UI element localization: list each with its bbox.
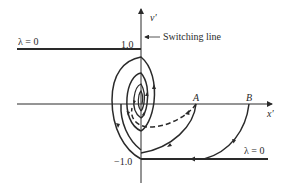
v-axis-label: v′ — [150, 13, 157, 23]
phase-plane-diagram: v′ 1.0 Switching line λ = 0 A B x′ −1.0 … — [0, 0, 288, 189]
arrow-lower-lambda-icon — [190, 157, 195, 162]
point-a-label: A — [193, 93, 199, 103]
lambda-upper-label: λ = 0 — [18, 37, 39, 47]
y-tick-bottom: −1.0 — [114, 157, 132, 167]
y-tick-top: 1.0 — [121, 40, 134, 50]
point-b-label: B — [246, 93, 252, 103]
arrow-outer-right-icon — [152, 84, 156, 89]
diagram-svg — [0, 0, 288, 189]
switching-line-label: Switching line — [163, 32, 221, 42]
arrow-dashed-icon — [185, 110, 190, 115]
trajectory-from-b — [204, 104, 249, 159]
lambda-lower-label: λ = 0 — [244, 146, 265, 156]
outer-spiral — [112, 57, 154, 159]
x-axis-label: x′ — [267, 109, 274, 119]
arrow-middle-left-icon — [127, 111, 131, 116]
